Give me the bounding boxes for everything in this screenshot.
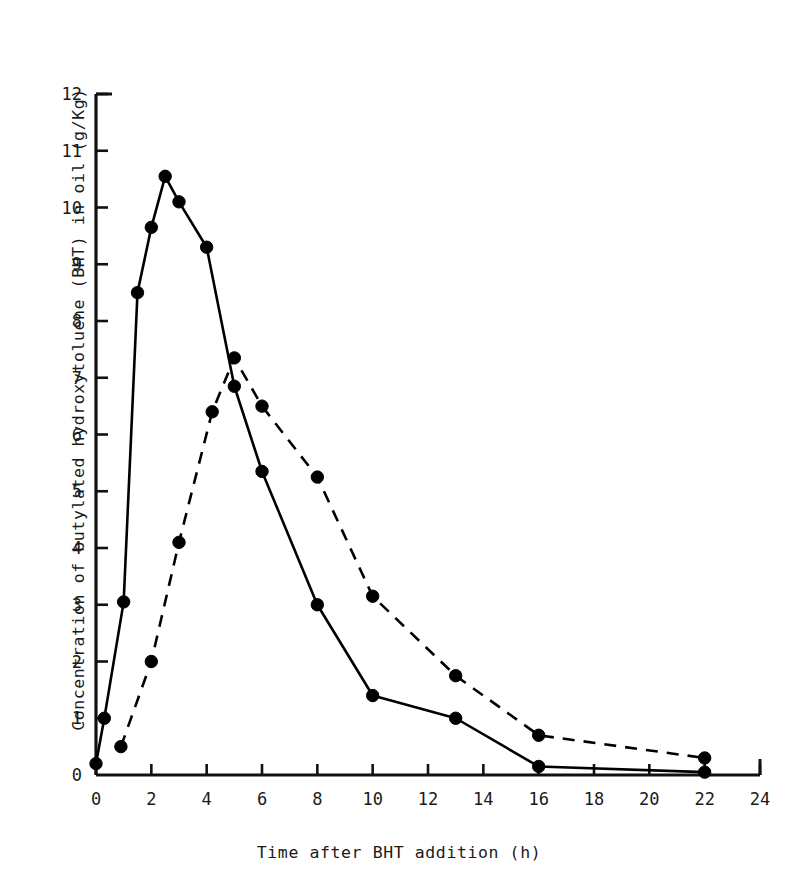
data-point-marker [145,221,157,233]
y-axis-title: Concentration of butylated hydroxytoluen… [69,40,88,780]
data-point-marker [532,729,544,741]
data-point-marker [173,536,185,548]
data-point-marker [698,766,710,778]
data-point-marker [173,196,185,208]
data-point-marker [366,689,378,701]
x-axis-title: Time after BHT addition (h) [0,843,798,862]
series-line-dashed [121,358,705,758]
data-point-marker [200,241,212,253]
data-point-marker [206,406,218,418]
data-point-marker [228,380,240,392]
data-point-marker [698,752,710,764]
data-point-marker [145,655,157,667]
axis-layer: 0246810121416182022240123456789101112 [62,84,771,809]
x-tick-label: 14 [473,789,493,809]
x-tick-label: 12 [418,789,438,809]
x-tick-label: 2 [146,789,156,809]
data-point-marker [449,712,461,724]
data-point-marker [131,286,143,298]
data-point-marker [117,596,129,608]
x-tick-label: 22 [694,789,714,809]
data-point-marker [256,465,268,477]
series-layer [90,170,711,778]
x-tick-label: 0 [91,789,101,809]
data-point-marker [98,712,110,724]
data-point-marker [228,352,240,364]
x-tick-label: 4 [202,789,212,809]
plot-area: 0246810121416182022240123456789101112 [0,0,798,882]
y-axis-title-wrapper: Concentration of butylated hydroxytoluen… [8,0,54,800]
x-tick-label: 10 [362,789,382,809]
data-point-marker [449,669,461,681]
x-tick-label: 24 [750,789,770,809]
x-tick-label: 6 [257,789,267,809]
data-point-marker [115,740,127,752]
data-point-marker [159,170,171,182]
data-point-marker [90,757,102,769]
chart-figure: Concentration of butylated hydroxytoluen… [0,0,798,882]
series-line-solid [96,176,705,772]
data-point-marker [256,400,268,412]
data-point-marker [311,599,323,611]
x-tick-label: 18 [584,789,604,809]
data-point-marker [311,471,323,483]
data-point-marker [366,590,378,602]
x-tick-label: 20 [639,789,659,809]
x-tick-label: 16 [528,789,548,809]
data-point-marker [532,760,544,772]
x-tick-label: 8 [312,789,322,809]
